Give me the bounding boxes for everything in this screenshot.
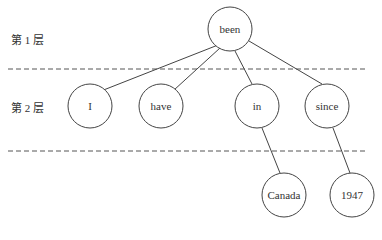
node-label-have: have xyxy=(131,100,191,112)
node-label-1947: 1947 xyxy=(322,189,382,201)
node-label-Canada: Canada xyxy=(254,189,314,201)
node-label-been: been xyxy=(200,23,260,35)
edge-been-since xyxy=(249,41,322,84)
node-label-I: I xyxy=(60,100,120,112)
level-label-2: 第 2 层 xyxy=(11,99,44,115)
edge-been-in xyxy=(235,51,252,84)
node-label-since: since xyxy=(297,100,357,112)
node-label-in: in xyxy=(227,100,287,112)
level-label-1: 第 1 层 xyxy=(11,31,44,47)
